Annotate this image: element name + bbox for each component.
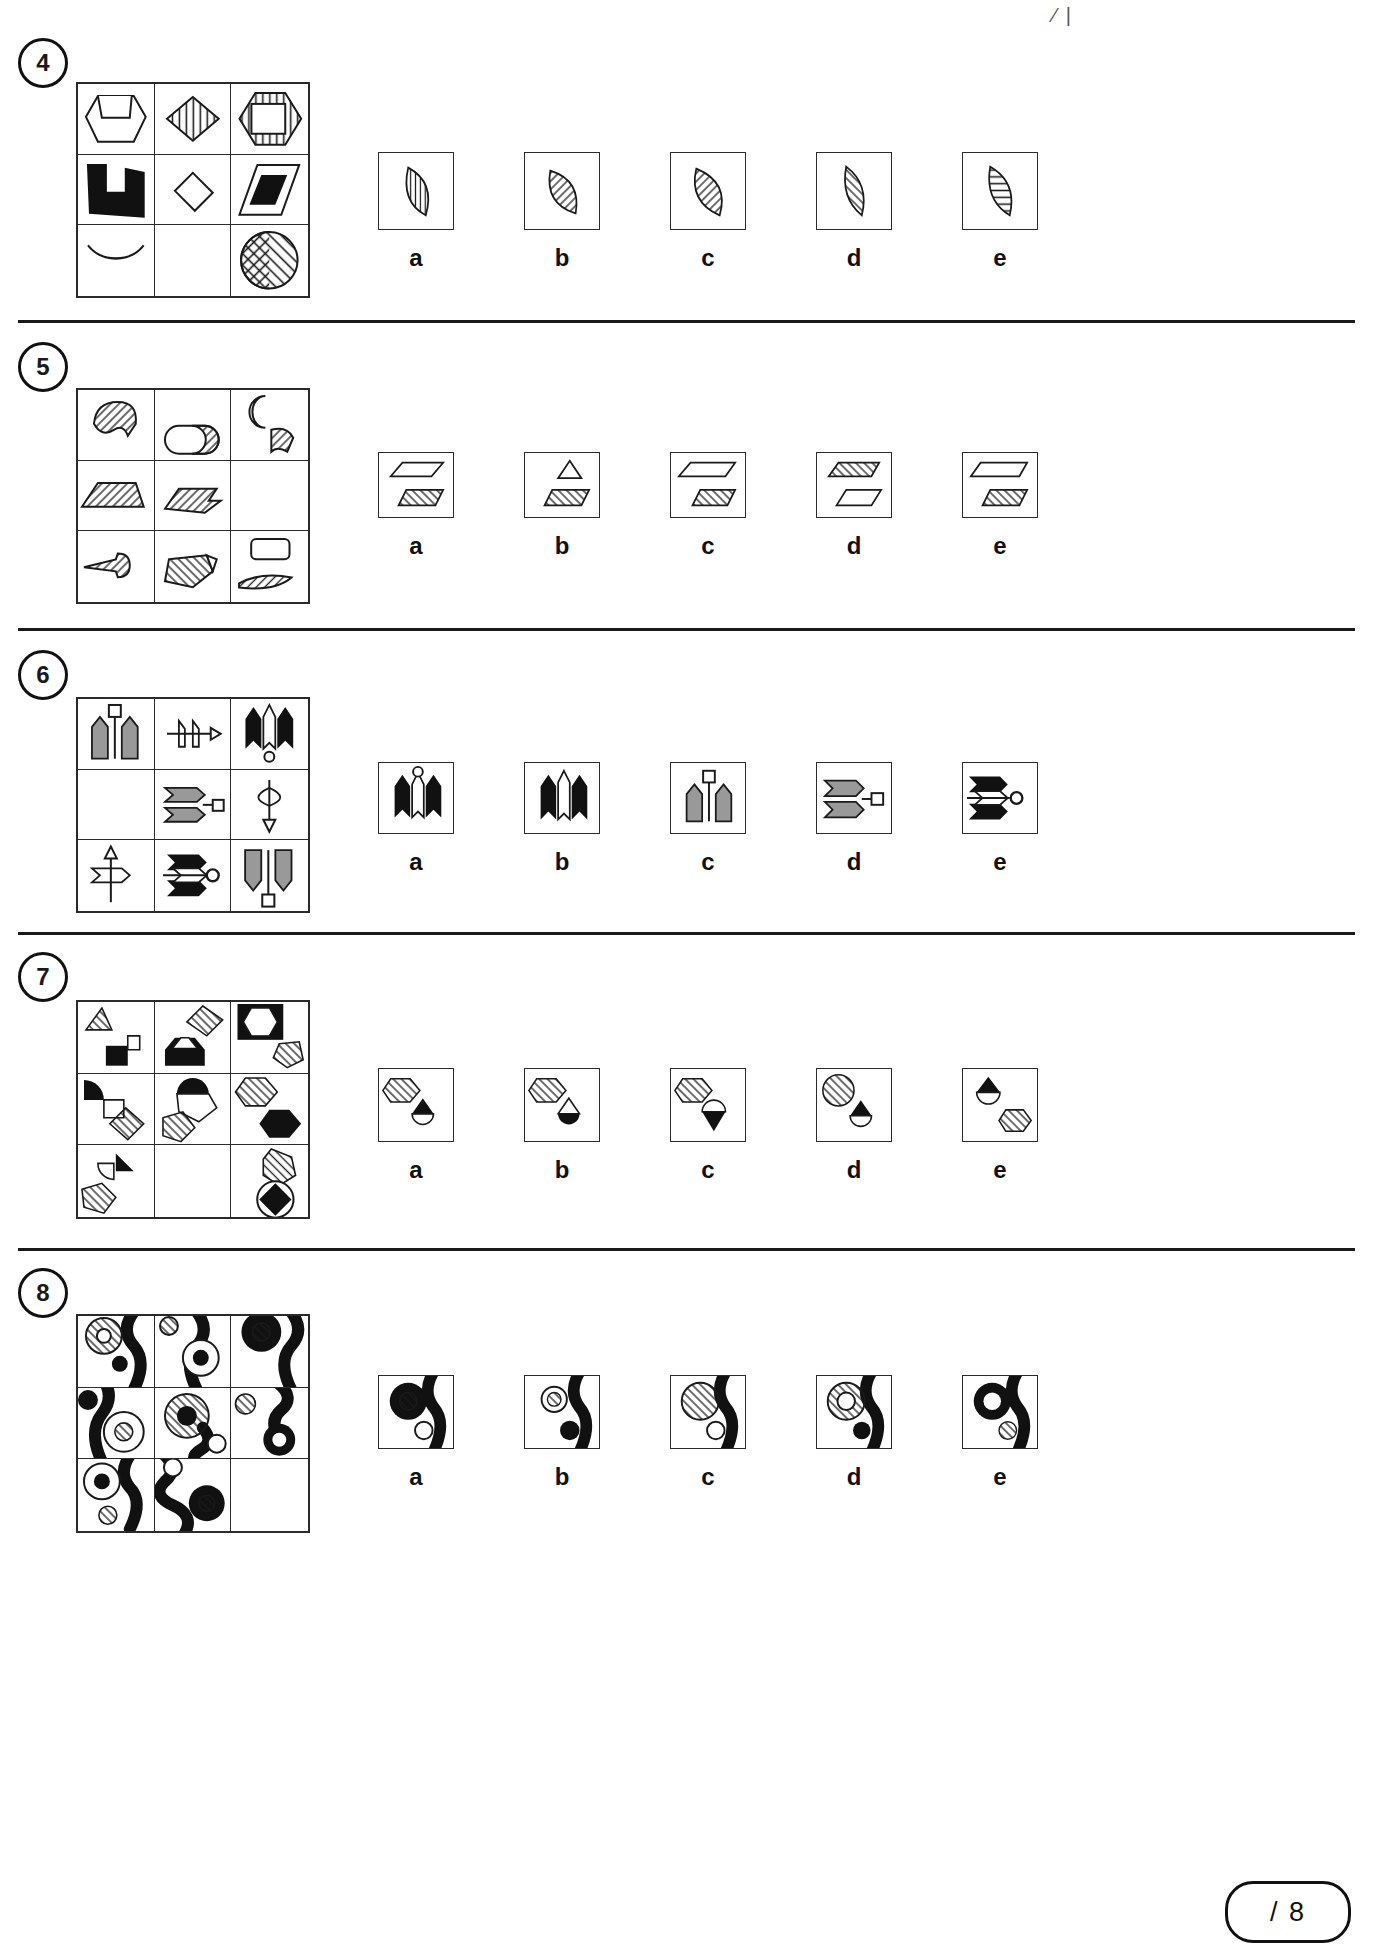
matrix-cell bbox=[231, 461, 308, 532]
matrix-cell[interactable] bbox=[155, 770, 232, 841]
matrix-cell[interactable] bbox=[78, 1145, 155, 1217]
option-e[interactable]: e bbox=[962, 1375, 1038, 1491]
option-b[interactable]: b bbox=[524, 762, 600, 876]
option-c[interactable]: c bbox=[670, 1375, 746, 1491]
option-d[interactable]: d bbox=[816, 762, 892, 876]
matrix-cell[interactable] bbox=[78, 1002, 155, 1074]
option-box[interactable] bbox=[816, 152, 892, 230]
matrix-cell[interactable] bbox=[231, 1002, 308, 1074]
matrix-cell[interactable] bbox=[78, 84, 155, 155]
matrix-cell[interactable] bbox=[78, 699, 155, 770]
option-b[interactable]: b bbox=[524, 152, 600, 272]
matrix-cell[interactable] bbox=[155, 461, 232, 532]
option-letter: e bbox=[993, 1463, 1006, 1491]
matrix-cell[interactable] bbox=[231, 770, 308, 841]
option-box[interactable] bbox=[670, 152, 746, 230]
option-d[interactable]: d bbox=[816, 152, 892, 272]
matrix-cell[interactable] bbox=[155, 390, 232, 461]
option-box[interactable] bbox=[670, 762, 746, 834]
option-c[interactable]: c bbox=[670, 152, 746, 272]
option-box[interactable] bbox=[524, 1375, 600, 1449]
option-d[interactable]: d bbox=[816, 1375, 892, 1491]
matrix-cell[interactable] bbox=[231, 1388, 308, 1460]
matrix-cell[interactable] bbox=[231, 1316, 308, 1388]
option-box[interactable] bbox=[962, 1068, 1038, 1142]
matrix-cell[interactable] bbox=[78, 390, 155, 461]
option-box[interactable] bbox=[378, 1068, 454, 1142]
option-box[interactable] bbox=[378, 1375, 454, 1449]
option-letter: e bbox=[993, 244, 1006, 272]
option-c[interactable]: c bbox=[670, 1068, 746, 1184]
option-a[interactable]: a bbox=[378, 1068, 454, 1184]
matrix-cell[interactable] bbox=[78, 1388, 155, 1460]
matrix-cell[interactable] bbox=[155, 1316, 232, 1388]
matrix-cell[interactable] bbox=[231, 155, 308, 226]
option-b[interactable]: b bbox=[524, 1375, 600, 1491]
option-b[interactable]: b bbox=[524, 452, 600, 560]
option-box[interactable] bbox=[524, 152, 600, 230]
option-box[interactable] bbox=[670, 1068, 746, 1142]
option-box[interactable] bbox=[378, 762, 454, 834]
matrix-cell[interactable] bbox=[155, 840, 232, 911]
option-box[interactable] bbox=[524, 762, 600, 834]
matrix-cell[interactable] bbox=[155, 1388, 232, 1460]
matrix-cell[interactable] bbox=[231, 225, 308, 296]
option-box[interactable] bbox=[816, 1068, 892, 1142]
option-a[interactable]: a bbox=[378, 152, 454, 272]
option-d[interactable]: d bbox=[816, 1068, 892, 1184]
option-c[interactable]: c bbox=[670, 762, 746, 876]
option-box[interactable] bbox=[962, 1375, 1038, 1449]
matrix-cell[interactable] bbox=[231, 840, 308, 911]
option-a[interactable]: a bbox=[378, 452, 454, 560]
option-box[interactable] bbox=[962, 152, 1038, 230]
matrix-cell[interactable] bbox=[78, 461, 155, 532]
matrix-cell[interactable] bbox=[231, 699, 308, 770]
matrix-cell[interactable] bbox=[155, 1002, 232, 1074]
option-box[interactable] bbox=[524, 1068, 600, 1142]
option-box[interactable] bbox=[962, 762, 1038, 834]
option-box[interactable] bbox=[378, 152, 454, 230]
option-box[interactable] bbox=[816, 762, 892, 834]
matrix-cell[interactable] bbox=[155, 155, 232, 226]
matrix-cell[interactable] bbox=[231, 531, 308, 602]
matrix-cell[interactable] bbox=[155, 84, 232, 155]
option-a[interactable]: a bbox=[378, 762, 454, 876]
matrix-cell[interactable] bbox=[78, 1074, 155, 1146]
matrix-cell[interactable] bbox=[78, 1459, 155, 1531]
matrix-cell[interactable] bbox=[155, 1459, 232, 1531]
option-e[interactable]: e bbox=[962, 152, 1038, 272]
option-e[interactable]: e bbox=[962, 1068, 1038, 1184]
matrix-cell[interactable] bbox=[155, 699, 232, 770]
option-box[interactable] bbox=[962, 452, 1038, 518]
matrix-cell[interactable] bbox=[78, 1316, 155, 1388]
option-box[interactable] bbox=[378, 452, 454, 518]
matrix-cell[interactable] bbox=[78, 840, 155, 911]
option-e[interactable]: e bbox=[962, 762, 1038, 876]
option-e[interactable]: e bbox=[962, 452, 1038, 560]
option-b[interactable]: b bbox=[524, 1068, 600, 1184]
option-letter: a bbox=[409, 1156, 422, 1184]
matrix-cell[interactable] bbox=[231, 84, 308, 155]
option-box[interactable] bbox=[670, 452, 746, 518]
option-c[interactable]: c bbox=[670, 452, 746, 560]
matrix-cell[interactable] bbox=[231, 1145, 308, 1217]
option-box[interactable] bbox=[816, 452, 892, 518]
matrix-q5 bbox=[76, 388, 310, 604]
option-letter: b bbox=[555, 1156, 570, 1184]
score-box[interactable]: / 8 bbox=[1225, 1881, 1351, 1943]
option-box[interactable] bbox=[670, 1375, 746, 1449]
option-d[interactable]: d bbox=[816, 452, 892, 560]
option-box[interactable] bbox=[524, 452, 600, 518]
options-q8: a b c d bbox=[378, 1375, 1038, 1491]
matrix-cell[interactable] bbox=[155, 531, 232, 602]
option-box[interactable] bbox=[816, 1375, 892, 1449]
option-a[interactable]: a bbox=[378, 1375, 454, 1491]
matrix-cell[interactable] bbox=[78, 155, 155, 226]
matrix-cell[interactable] bbox=[78, 225, 155, 296]
matrix-cell[interactable] bbox=[155, 1074, 232, 1146]
matrix-cell[interactable] bbox=[78, 531, 155, 602]
matrix-cell[interactable] bbox=[231, 1074, 308, 1146]
option-letter: a bbox=[409, 532, 422, 560]
matrix-cell[interactable] bbox=[231, 390, 308, 461]
option-letter: a bbox=[409, 1463, 422, 1491]
